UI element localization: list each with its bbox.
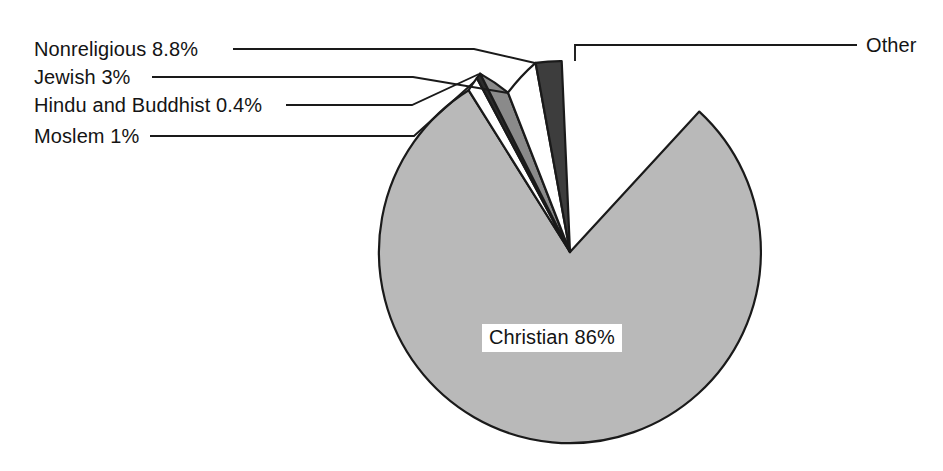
leader-line-hindu-and-buddhist: [286, 74, 479, 105]
pie-chart-canvas: [0, 0, 943, 471]
callout-label-hindu-and-buddhist: Hindu and Buddhist 0.4%: [34, 94, 262, 117]
callout-label-nonreligious: Nonreligious 8.8%: [34, 38, 198, 61]
callout-label-jewish: Jewish 3%: [34, 66, 131, 89]
slice-label-christian: Christian 86%: [482, 324, 622, 352]
leader-line-nonreligious: [233, 49, 535, 63]
pie-slice-christian: [379, 90, 761, 443]
callout-label-other: Other: [866, 34, 917, 57]
callout-label-moslem: Moslem 1%: [34, 125, 139, 148]
leader-line-other: [575, 45, 857, 61]
pie-chart-figure: Nonreligious 8.8% Jewish 3% Hindu and Bu…: [0, 0, 943, 471]
